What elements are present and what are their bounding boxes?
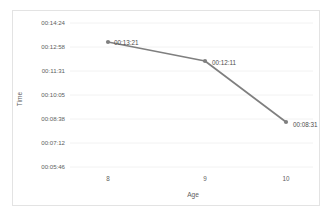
y-tick-label-3: 00:10:05 <box>41 91 65 98</box>
y-tick-label-1: 00:12:58 <box>41 43 65 50</box>
x-axis-tick-labels: 8 9 10 <box>106 175 290 182</box>
line-chart-canvas[interactable]: 00:14:24 00:12:58 00:11:31 00:10:05 00:0… <box>13 11 321 207</box>
data-label-age-10: 00:08:31 <box>293 121 318 128</box>
chart-plot-frame: 00:14:24 00:12:58 00:11:31 00:10:05 00:0… <box>12 10 320 206</box>
data-point-age-8[interactable] <box>106 40 110 44</box>
data-label-age-9: 00:12:11 <box>212 59 237 66</box>
data-point-age-9[interactable] <box>203 59 207 63</box>
series-markers[interactable] <box>106 40 288 124</box>
x-tick-label-1: 9 <box>203 175 207 182</box>
data-point-age-10[interactable] <box>284 120 288 124</box>
y-tick-label-6: 00:05:46 <box>41 163 65 170</box>
y-tick-label-2: 00:11:31 <box>42 67 66 74</box>
x-tick-label-0: 8 <box>106 175 110 182</box>
gridlines-horizontal <box>70 23 313 167</box>
y-tick-label-5: 00:07:12 <box>41 139 65 146</box>
series-line-time[interactable] <box>108 42 286 122</box>
data-label-age-8: 00:13:21 <box>114 39 139 46</box>
chart-figure: 00:14:24 00:12:58 00:11:31 00:10:05 00:0… <box>0 0 333 218</box>
y-tick-label-4: 00:08:38 <box>41 115 65 122</box>
y-axis-tick-labels: 00:14:24 00:12:58 00:11:31 00:10:05 00:0… <box>41 19 65 170</box>
y-tick-label-0: 00:14:24 <box>41 19 65 26</box>
y-axis-title: Time <box>16 91 23 106</box>
x-axis-title: Age <box>187 191 199 199</box>
x-tick-label-2: 10 <box>282 175 290 182</box>
data-point-labels: 00:13:21 00:12:11 00:08:31 <box>114 39 318 128</box>
